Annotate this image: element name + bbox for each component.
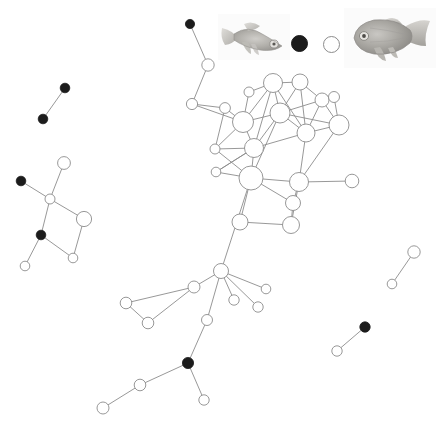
graph-node-open[interactable]	[45, 194, 55, 204]
graph-node-open[interactable]	[332, 346, 342, 356]
graph-node-open[interactable]	[261, 284, 271, 294]
graph-node-open[interactable]	[408, 246, 420, 258]
graph-node-open[interactable]	[202, 59, 214, 71]
graph-node-open[interactable]	[186, 98, 197, 109]
graph-edge	[103, 385, 140, 408]
graph-node-filled[interactable]	[185, 19, 194, 28]
graph-node-filled[interactable]	[36, 230, 46, 240]
graph-node-filled[interactable]	[360, 322, 370, 332]
graph-node-open[interactable]	[297, 124, 315, 142]
graph-node-filled[interactable]	[60, 83, 70, 93]
graph-node-open[interactable]	[239, 166, 263, 190]
graph-node-open[interactable]	[142, 317, 154, 329]
graph-edge	[188, 363, 204, 400]
graph-node-open[interactable]	[290, 173, 309, 192]
graph-node-open[interactable]	[68, 253, 78, 263]
graph-node-open[interactable]	[387, 279, 397, 289]
graph-node-open[interactable]	[232, 214, 248, 230]
graph-edge	[188, 320, 207, 363]
legend-node-filled	[291, 35, 308, 52]
graph-node-open[interactable]	[20, 261, 30, 271]
graph-node-open[interactable]	[329, 92, 340, 103]
graph-node-open[interactable]	[233, 112, 254, 133]
graph-edge	[190, 24, 208, 65]
graph-node-open[interactable]	[210, 144, 220, 154]
graph-node-open[interactable]	[229, 295, 239, 305]
graph-node-open[interactable]	[97, 402, 109, 414]
graph-node-open[interactable]	[134, 379, 146, 391]
graph-edge	[41, 235, 73, 258]
graph-node-filled[interactable]	[16, 176, 26, 186]
graph-node-open[interactable]	[214, 264, 229, 279]
graph-node-open[interactable]	[199, 395, 209, 405]
fish-large-photo	[344, 8, 436, 68]
graph-node-open[interactable]	[315, 93, 329, 107]
network-figure	[0, 0, 437, 427]
graph-node-open[interactable]	[253, 302, 263, 312]
graph-node-open[interactable]	[76, 211, 91, 226]
graph-edge	[43, 88, 65, 119]
graph-node-open[interactable]	[329, 115, 349, 135]
graph-node-open[interactable]	[286, 196, 301, 211]
graph-node-open[interactable]	[345, 174, 359, 188]
legend-node-open	[323, 36, 340, 53]
graph-edge	[140, 363, 188, 385]
graph-node-open[interactable]	[264, 74, 283, 93]
graph-node-open[interactable]	[220, 103, 231, 114]
graph-node-open[interactable]	[270, 103, 290, 123]
graph-node-open[interactable]	[244, 87, 254, 97]
fish-small-photo	[218, 14, 290, 60]
graph-node-open[interactable]	[292, 74, 308, 90]
graph-nodes	[16, 19, 420, 414]
graph-node-open[interactable]	[188, 281, 200, 293]
graph-node-filled[interactable]	[182, 357, 193, 368]
graph-node-open[interactable]	[202, 315, 213, 326]
graph-node-filled[interactable]	[38, 114, 48, 124]
graph-edge	[41, 199, 50, 235]
graph-node-open[interactable]	[120, 297, 132, 309]
graph-node-open[interactable]	[58, 157, 71, 170]
graph-node-open[interactable]	[283, 217, 300, 234]
graph-node-open[interactable]	[245, 139, 264, 158]
graph-node-open[interactable]	[211, 167, 221, 177]
